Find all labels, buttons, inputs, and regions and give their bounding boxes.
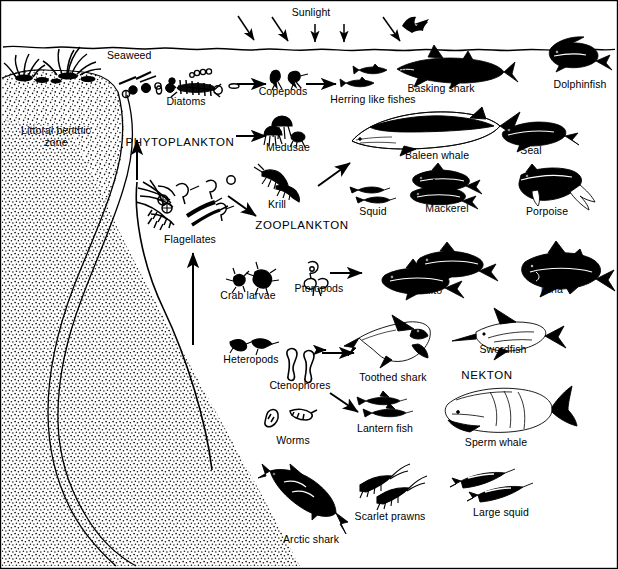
sperm-whale-icon <box>445 386 577 432</box>
label-heteropods: Heteropods <box>223 354 278 366</box>
label-tuna: Tuna <box>539 284 563 296</box>
label-porpoise: Porpoise <box>526 206 568 218</box>
arrow-zooplankton-to-nekton <box>318 163 350 186</box>
label-squid: Squid <box>359 206 386 218</box>
label-seal: Seal <box>520 145 541 157</box>
label-lantern-fish: Lantern fish <box>357 423 413 435</box>
label-pteropods: Pteropods <box>295 283 344 295</box>
porpoise-icon <box>519 164 595 210</box>
label-medusae: Medusae <box>266 142 310 154</box>
label-diatoms: Diatoms <box>166 96 205 108</box>
label-swordfish: Swordfish <box>479 344 526 356</box>
label-ctenophores: Ctenophores <box>269 380 330 392</box>
worms-icon <box>265 409 317 427</box>
label-toothed-shark: Toothed shark <box>359 372 426 384</box>
label-large-squid: Large squid <box>473 507 529 519</box>
label-flagellates: Flagellates <box>164 234 216 246</box>
label-dolphinfish: Dolphinfish <box>553 79 606 91</box>
label-sperm-whale: Sperm whale <box>465 437 527 449</box>
ctenophores-icon <box>287 349 314 383</box>
dolphinfish-icon <box>549 37 612 72</box>
scarlet-prawns-icon <box>360 464 427 510</box>
label-seaweed: Seaweed <box>107 50 151 62</box>
label-copepods: Copepods <box>259 86 308 98</box>
label-mackerel: Mackerel <box>425 203 468 215</box>
label-basking-shark: Basking shark <box>407 83 474 95</box>
label-littoral-benthic-zone: Littoral benthic zone <box>12 125 100 149</box>
tuna-icon <box>522 241 615 297</box>
label-zooplankton: ZOOPLANKTON <box>255 219 348 232</box>
label-herring-like-fishes: Herring like fishes <box>330 94 415 106</box>
squid-icon <box>350 187 396 203</box>
label-bonito: Bonito <box>412 285 442 297</box>
diatoms-icon <box>119 69 239 98</box>
herring-icon <box>340 64 387 87</box>
label-baleen-whale: Baleen whale <box>405 150 469 162</box>
seabird-icon <box>402 17 429 33</box>
label-krill: Krill <box>268 199 286 211</box>
label-worms: Worms <box>276 435 310 447</box>
label-scarlet-prawns: Scarlet prawns <box>355 511 426 523</box>
label-crab-larvae: Crab larvae <box>220 290 275 302</box>
label-phytoplankton: PHYTOPLANKTON <box>126 136 235 149</box>
arrow-ctenophores-to-lantern-fish <box>330 393 358 412</box>
label-sunlight: Sunlight <box>292 7 331 19</box>
lantern-fish-icon <box>357 391 413 417</box>
label-arctic-shark: Arctic shark <box>283 534 339 546</box>
toothed-shark-icon <box>344 315 430 368</box>
sea-surface-line <box>3 46 615 50</box>
flagellates-icon <box>136 176 235 230</box>
label-nekton: NEKTON <box>461 369 512 382</box>
large-squid-icon <box>450 469 533 502</box>
sunlight-rays <box>238 16 400 42</box>
krill-icon <box>254 164 299 202</box>
food-web-diagram: Sunlight Seaweed Diatoms Copepods Herrin… <box>0 0 618 569</box>
